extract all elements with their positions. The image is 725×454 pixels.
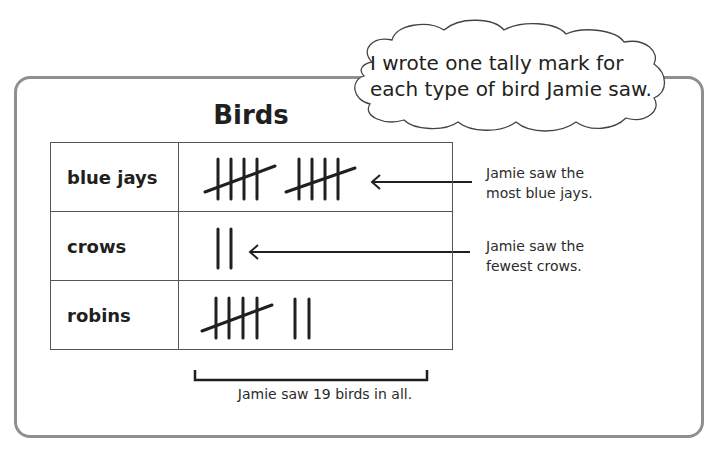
annotation-total: Jamie saw 19 birds in all. (150, 386, 500, 402)
table-row: blue jays (51, 143, 453, 212)
annotation-fewest: Jamie saw the fewest crows. (486, 236, 584, 276)
row-label: blue jays (51, 143, 179, 212)
tally-cell (179, 143, 453, 212)
tally-cell (179, 212, 453, 281)
speech-bubble-text: I wrote one tally mark for each type of … (370, 50, 652, 102)
table-title: Birds (50, 100, 452, 130)
total-bracket (195, 370, 427, 380)
tally-table: blue jays crows robins (50, 142, 453, 350)
table-row: crows (51, 212, 453, 281)
table-row: robins (51, 281, 453, 350)
row-label: robins (51, 281, 179, 350)
annotation-most: Jamie saw the most blue jays. (486, 163, 593, 203)
row-label: crows (51, 212, 179, 281)
tally-cell (179, 281, 453, 350)
